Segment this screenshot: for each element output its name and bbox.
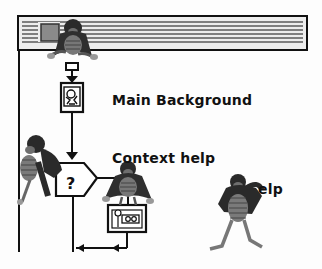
close-box-icon[interactable]: [38, 22, 60, 42]
flowchart-canvas: ?: [0, 0, 322, 269]
bug-character-standing: [210, 174, 262, 249]
decision-icon[interactable]: ?: [56, 163, 97, 196]
label-main-background: Main Background: [112, 92, 252, 108]
map-icon-help[interactable]: [108, 205, 146, 232]
label-context-help: Context help: [112, 150, 215, 166]
decision-symbol: ?: [66, 174, 75, 193]
label-help-partial: elp: [258, 181, 283, 197]
display-icon-main-background[interactable]: [61, 83, 83, 112]
